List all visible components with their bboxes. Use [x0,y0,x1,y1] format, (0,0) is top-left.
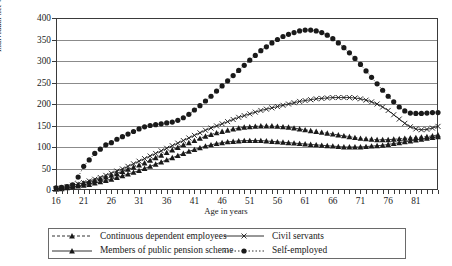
x-tick-label-31: 31 [127,196,151,206]
legend-item-self-employed: Self-employed [223,245,409,257]
legend-label: Members of public pension scheme [100,246,233,255]
data-point [336,40,341,45]
x-tick-mark-51 [250,190,251,194]
data-point [402,108,407,113]
data-point [319,129,325,134]
chart-legend: Continuous dependent employees Civil ser… [48,228,406,259]
data-point [375,81,380,86]
data-point [424,110,429,115]
data-point [136,126,141,131]
x-tick-mark-55 [272,190,273,194]
x-tick-mark-39 [183,190,184,194]
data-point [325,33,330,38]
x-tick-mark-30 [134,190,135,194]
data-point [253,110,258,115]
x-tick-mark-34 [156,190,157,194]
data-point [435,110,440,115]
data-point [114,137,119,142]
legend-label: Continuous dependent employees [100,232,227,241]
x-tick-mark-32 [145,190,146,194]
data-point [181,115,186,120]
data-point [219,129,225,134]
x-tick-mark-17 [62,190,63,194]
x-tick-mark-43 [205,190,206,194]
x-tick-mark-45 [217,190,218,194]
data-point [225,119,230,124]
data-point [131,129,136,134]
x-tick-mark-20 [78,190,79,194]
data-point [142,124,147,129]
x-tick-mark-78 [399,190,400,194]
data-point [186,135,191,140]
x-tick-mark-61 [305,190,306,194]
x-tick-mark-19 [73,190,74,194]
data-point [347,50,352,55]
data-point [386,94,391,99]
data-point [297,28,302,33]
data-point [280,34,285,39]
legend-item-continuous-dependent-employees: Continuous dependent employees [51,230,223,242]
data-point [81,164,86,169]
x-tick-mark-53 [261,190,262,194]
data-point [264,44,269,49]
x-tick-mark-36 [167,190,168,194]
x-tick-mark-70 [355,190,356,194]
x-tick-mark-48 [233,190,234,194]
x-tick-mark-65 [327,190,328,194]
data-point [302,127,308,132]
x-tick-mark-84 [432,190,433,194]
data-point [291,30,296,35]
data-point [358,136,364,141]
x-tick-mark-75 [383,190,384,194]
data-point [220,121,225,126]
data-point [397,104,402,109]
data-point [186,112,191,117]
x-tick-mark-67 [338,190,339,194]
data-point [236,68,241,73]
data-point [64,184,69,189]
x-tick-mark-18 [67,190,68,194]
legend-key-glyph [51,230,93,242]
data-point [230,126,236,131]
data-point [314,28,319,33]
x-tick-label-61: 61 [293,196,317,206]
x-tick-mark-71 [360,190,361,194]
data-point [369,99,374,104]
legend-key-glyph [223,230,265,242]
data-point [147,163,153,168]
x-tick-mark-82 [421,190,422,194]
data-point [386,108,391,113]
x-tick-mark-49 [239,190,240,194]
x-tick-label-56: 56 [265,196,289,206]
data-point [408,110,413,115]
data-point [214,89,219,94]
x-tick-mark-37 [172,190,173,194]
x-tick-mark-24 [100,190,101,194]
x-tick-mark-73 [372,190,373,194]
x-tick-label-36: 36 [155,196,179,206]
data-point [225,78,230,83]
x-tick-mark-31 [139,190,140,194]
data-point [263,123,269,128]
data-point [180,151,186,156]
legend-key-glyph [223,245,265,257]
x-tick-label-41: 41 [182,196,206,206]
data-point [125,132,130,137]
legend-item-members-of-public-pension-scheme: Members of public pension scheme [51,245,223,257]
data-point [308,27,313,32]
data-point [236,115,241,120]
data-point [369,75,374,80]
data-point [109,140,114,145]
data-point [175,153,181,158]
x-tick-label-26: 26 [99,196,123,206]
data-point [269,40,274,45]
x-tick-mark-27 [117,190,118,194]
data-point [92,151,97,156]
data-point [242,63,247,68]
x-tick-mark-76 [388,190,389,194]
x-tick-label-51: 51 [238,196,262,206]
data-point [98,147,103,152]
data-point [391,99,396,104]
x-tick-label-66: 66 [321,196,345,206]
data-point [363,68,368,73]
